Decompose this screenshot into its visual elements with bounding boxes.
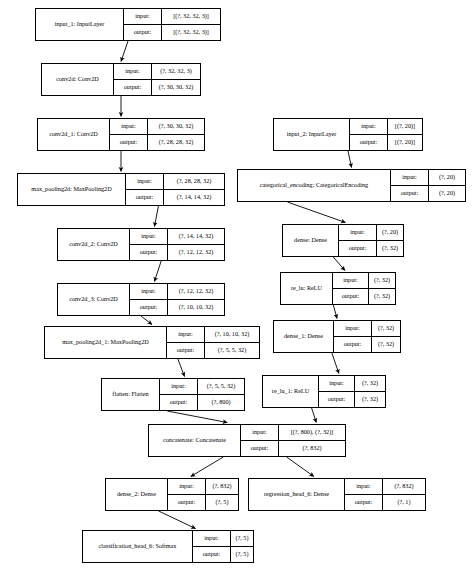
node-title-input_1: input_1: InputLayer xyxy=(36,9,124,40)
node-input_1[interactable]: input_1: InputLayerinput:[(?, 32, 32, 3)… xyxy=(35,8,221,41)
output-label: output: xyxy=(241,441,279,456)
node-input-row-conv2d_3: input:(?, 12, 12, 32) xyxy=(130,284,224,300)
node-output-shape-input_2: [(?, 20)] xyxy=(388,135,422,150)
node-io-conv2d_1: input:(?, 30, 30, 32)output:(?, 28, 28, … xyxy=(110,119,204,150)
edge-concatenate-to-regression_head_6 xyxy=(287,457,314,477)
node-categorical_encoding[interactable]: categorical_encoding: CategoricalEncodin… xyxy=(237,169,466,202)
node-input-row-max_pooling2d_1: input:(?, 10, 10, 32) xyxy=(167,327,259,343)
edge-max_pooling2d_1-to-flatten xyxy=(178,359,185,377)
node-max_pooling2d_1[interactable]: max_pooling2d_1: MaxPooling2Dinput:(?, 1… xyxy=(44,326,260,359)
node-dense_2[interactable]: dense_2: Denseinput:(?, 832)output:(?, 5… xyxy=(105,478,239,511)
node-input-shape-input_1: [(?, 32, 32, 3)] xyxy=(162,9,220,24)
node-input-shape-input_2: [(?, 20)] xyxy=(388,119,422,134)
node-re_lu_1[interactable]: re_lu_1: ReLUinput:(?, 32)output:(?, 32) xyxy=(262,375,386,408)
output-label: output: xyxy=(334,337,372,352)
node-output-shape-conv2d_1: (?, 28, 28, 32) xyxy=(148,135,204,150)
node-title-max_pooling2d_1: max_pooling2d_1: MaxPooling2D xyxy=(45,327,167,358)
node-title-dense: dense: Dense xyxy=(283,225,339,256)
input-label: input: xyxy=(167,327,205,342)
node-title-flatten: flatten: Flatten xyxy=(102,379,160,410)
node-input-shape-max_pooling2d: (?, 28, 28, 32) xyxy=(164,174,224,189)
node-output-shape-re_lu: (?, 32) xyxy=(369,289,395,304)
node-input-shape-conv2d_1: (?, 30, 30, 32) xyxy=(148,119,204,134)
input-label: input: xyxy=(130,229,168,244)
node-input-row-dense: input:(?, 20) xyxy=(339,225,403,241)
node-output-row-concatenate: output:(?, 832) xyxy=(241,441,345,456)
output-label: output: xyxy=(167,343,205,358)
output-label: output: xyxy=(350,135,388,150)
edge-max_pooling2d-to-conv2d_2 xyxy=(154,206,158,227)
node-output-row-max_pooling2d_1: output:(?, 5, 5, 32) xyxy=(167,343,259,358)
node-title-re_lu_1: re_lu_1: ReLU xyxy=(263,376,319,407)
node-title-conv2d_3: conv2d_3: Conv2D xyxy=(58,284,130,315)
node-title-dense_1: dense_1: Dense xyxy=(274,321,334,352)
node-re_lu[interactable]: re_lu: ReLUinput:(?, 32)output:(?, 32) xyxy=(280,272,396,305)
node-max_pooling2d[interactable]: max_pooling2d: MaxPooling2Dinput:(?, 28,… xyxy=(17,173,225,206)
node-title-max_pooling2d: max_pooling2d: MaxPooling2D xyxy=(18,174,126,205)
node-input-row-re_lu: input:(?, 32) xyxy=(333,273,395,289)
input-label: input: xyxy=(339,225,377,240)
node-output-row-dense: output:(?, 32) xyxy=(339,241,403,256)
edge-dense-to-re_lu xyxy=(333,257,345,271)
node-input-row-conv2d_1: input:(?, 30, 30, 32) xyxy=(110,119,204,135)
node-input-shape-dense_1: (?, 32) xyxy=(372,321,400,336)
node-input-shape-dense: (?, 20) xyxy=(377,225,403,240)
node-dense[interactable]: dense: Denseinput:(?, 20)output:(?, 32) xyxy=(282,224,404,257)
node-input-shape-max_pooling2d_1: (?, 10, 10, 32) xyxy=(205,327,259,342)
node-output-shape-dense: (?, 32) xyxy=(377,241,403,256)
node-output-row-dense_1: output:(?, 32) xyxy=(334,337,400,352)
node-title-concatenate: concatenate: Concatenate xyxy=(149,425,241,456)
node-title-input_2: input_2: InputLayer xyxy=(274,119,350,150)
node-output-shape-input_1: [(?, 32, 32, 3)] xyxy=(162,25,220,40)
node-title-re_lu: re_lu: ReLU xyxy=(281,273,333,304)
node-input-row-dense_2: input:(?, 832) xyxy=(168,479,238,495)
node-conv2d_3[interactable]: conv2d_3: Conv2Dinput:(?, 12, 12, 32)out… xyxy=(57,283,225,316)
edge-flatten-to-concatenate xyxy=(167,411,227,423)
input-label: input: xyxy=(130,284,168,299)
node-output-row-classification_head_6: output:(?, 5) xyxy=(193,547,253,562)
output-label: output: xyxy=(114,80,152,95)
node-classification_head_6[interactable]: classification_head_6: Softmaxinput:(?, … xyxy=(82,530,254,563)
node-title-conv2d: conv2d: Conv2D xyxy=(42,64,114,95)
node-conv2d[interactable]: conv2d: Conv2Dinput:(?, 32, 32, 3)output… xyxy=(41,63,201,96)
node-output-shape-classification_head_6: (?, 5) xyxy=(231,547,253,562)
node-dense_1[interactable]: dense_1: Denseinput:(?, 32)output:(?, 32… xyxy=(273,320,401,353)
node-input_2[interactable]: input_2: InputLayerinput:[(?, 20)]output… xyxy=(273,118,423,151)
node-input-row-regression_head_6: input:(?, 832) xyxy=(345,479,425,495)
edge-re_lu_1-to-concatenate xyxy=(312,408,317,423)
node-input-row-classification_head_6: input:(?, 5) xyxy=(193,531,253,547)
node-io-flatten: input:(?, 5, 5, 32)output:(?, 800) xyxy=(160,379,244,410)
node-output-shape-flatten: (?, 800) xyxy=(198,395,244,410)
node-title-categorical_encoding: categorical_encoding: CategoricalEncodin… xyxy=(238,170,391,201)
node-flatten[interactable]: flatten: Flatteninput:(?, 5, 5, 32)outpu… xyxy=(101,378,245,411)
node-output-shape-max_pooling2d: (?, 14, 14, 32) xyxy=(164,190,224,205)
output-label: output: xyxy=(130,245,168,260)
edge-re_lu-to-dense_1 xyxy=(333,305,337,319)
node-output-row-max_pooling2d: output:(?, 14, 14, 32) xyxy=(126,190,224,205)
node-output-shape-conv2d_2: (?, 12, 12, 32) xyxy=(168,245,224,260)
node-output-row-dense_2: output:(?, 5) xyxy=(168,495,238,510)
node-title-regression_head_6: regression_head_6: Dense xyxy=(249,479,345,510)
node-conv2d_2[interactable]: conv2d_2: Conv2Dinput:(?, 14, 14, 32)out… xyxy=(57,228,225,261)
node-io-conv2d_2: input:(?, 14, 14, 32)output:(?, 12, 12, … xyxy=(130,229,224,260)
output-label: output: xyxy=(345,495,383,510)
node-output-shape-conv2d_3: (?, 10, 10, 32) xyxy=(168,300,224,315)
node-input-row-re_lu_1: input:(?, 32) xyxy=(319,376,385,392)
node-output-row-conv2d_2: output:(?, 12, 12, 32) xyxy=(130,245,224,260)
node-output-shape-re_lu_1: (?, 32) xyxy=(355,392,385,407)
input-label: input: xyxy=(193,531,231,546)
node-io-re_lu_1: input:(?, 32)output:(?, 32) xyxy=(319,376,385,407)
node-concatenate[interactable]: concatenate: Concatenateinput:[(?, 800),… xyxy=(148,424,346,457)
node-input-shape-dense_2: (?, 832) xyxy=(206,479,238,494)
node-regression_head_6[interactable]: regression_head_6: Denseinput:(?, 832)ou… xyxy=(248,478,426,511)
node-input-shape-re_lu: (?, 32) xyxy=(369,273,395,288)
output-label: output: xyxy=(130,300,168,315)
edge-dense_2-to-classification_head_6 xyxy=(159,511,196,529)
node-input-row-conv2d: input:(?, 32, 32, 3) xyxy=(114,64,200,80)
node-output-row-input_1: output:[(?, 32, 32, 3)] xyxy=(124,25,220,40)
node-input-row-input_2: input:[(?, 20)] xyxy=(350,119,422,135)
input-label: input: xyxy=(126,174,164,189)
node-io-classification_head_6: input:(?, 5)output:(?, 5) xyxy=(193,531,253,562)
node-input-row-concatenate: input:[(?, 800), (?, 32)] xyxy=(241,425,345,441)
node-conv2d_1[interactable]: conv2d_1: Conv2Dinput:(?, 30, 30, 32)out… xyxy=(37,118,205,151)
